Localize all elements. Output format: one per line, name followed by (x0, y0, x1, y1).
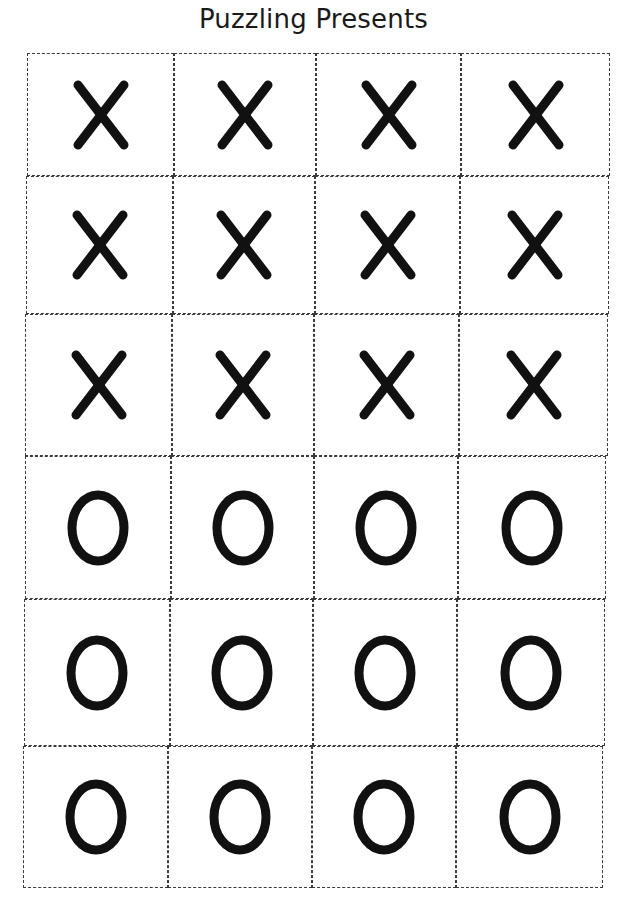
x-mark-icon (214, 209, 274, 281)
game-card (23, 746, 168, 888)
o-mark-icon (66, 635, 128, 711)
game-card (27, 53, 174, 176)
game-card (315, 176, 460, 314)
o-mark-icon (499, 779, 561, 855)
game-card (173, 176, 315, 314)
x-mark-icon (504, 349, 564, 421)
game-card (459, 314, 608, 456)
x-mark-icon (215, 79, 275, 151)
game-card (460, 176, 609, 314)
x-mark-icon (359, 79, 419, 151)
o-mark-icon (354, 635, 416, 711)
o-mark-icon (212, 490, 274, 566)
game-card (170, 599, 313, 746)
x-mark-icon (357, 349, 417, 421)
game-card (174, 53, 316, 176)
x-mark-icon (70, 209, 130, 281)
game-card (457, 599, 605, 746)
o-mark-icon (65, 779, 127, 855)
game-card (314, 314, 459, 456)
game-card (25, 456, 171, 599)
o-mark-icon (67, 490, 129, 566)
o-mark-icon (500, 635, 562, 711)
game-card (314, 456, 458, 599)
x-mark-icon (506, 79, 566, 151)
game-card (456, 746, 603, 888)
o-mark-icon (501, 490, 563, 566)
x-mark-icon (505, 209, 565, 281)
game-card (458, 456, 606, 599)
game-card (171, 456, 314, 599)
o-mark-icon (353, 779, 415, 855)
o-mark-icon (209, 779, 271, 855)
cutout-card-grid (0, 0, 627, 903)
game-card (312, 746, 456, 888)
x-mark-icon (71, 79, 131, 151)
game-card (461, 53, 610, 176)
game-card (316, 53, 461, 176)
game-card (25, 314, 172, 456)
x-mark-icon (213, 349, 273, 421)
game-card (313, 599, 457, 746)
x-mark-icon (69, 349, 129, 421)
o-mark-icon (355, 490, 417, 566)
x-mark-icon (358, 209, 418, 281)
game-card (172, 314, 314, 456)
o-mark-icon (211, 635, 273, 711)
game-card (168, 746, 312, 888)
game-card (26, 176, 173, 314)
game-card (24, 599, 170, 746)
